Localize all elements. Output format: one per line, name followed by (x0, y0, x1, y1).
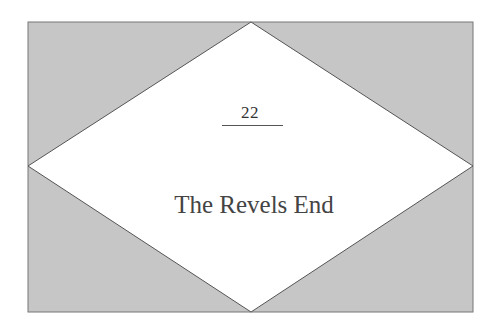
chapter-ornament (0, 0, 500, 332)
chapter-title: The Revels End (100, 191, 408, 219)
divider-rule (222, 125, 283, 126)
chapter-number: 22 (200, 103, 300, 123)
